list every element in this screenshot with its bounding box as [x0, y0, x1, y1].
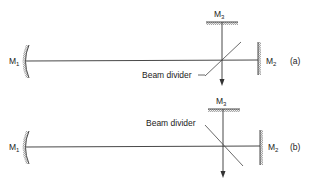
beam-divider-label: Beam divider [146, 118, 196, 128]
panel-b-tag: (b) [290, 142, 301, 152]
m2-label: M2 [266, 56, 277, 67]
m3-label: M3 [214, 9, 225, 20]
mirror-m1-icon [23, 45, 30, 78]
m3-label: M3 [216, 96, 227, 107]
beam-divider-icon [205, 125, 243, 166]
mirror-m1-icon [23, 131, 30, 164]
mirror-m2-icon [258, 42, 261, 75]
interferometer-diagram: M1 M3 M2 Beam divider (a) M [0, 0, 315, 183]
beam-divider-label: Beam divider [142, 70, 192, 80]
output-arrow-icon [221, 171, 226, 178]
mirror-m2-icon [260, 130, 263, 165]
m2-label: M2 [268, 142, 279, 153]
mirror-m3-icon [208, 109, 240, 112]
panel-a-tag: (a) [290, 56, 301, 66]
beam-path-horizontal [26, 60, 258, 61]
beam-divider-icon [205, 42, 241, 76]
output-arrow-icon [220, 79, 225, 86]
panel-a: M1 M3 M2 Beam divider (a) [9, 9, 301, 86]
m1-label: M1 [9, 142, 20, 153]
m1-label: M1 [9, 56, 20, 67]
mirror-m3-icon [206, 22, 238, 25]
panel-b: M1 M3 M2 Beam divider (b) [9, 96, 301, 178]
